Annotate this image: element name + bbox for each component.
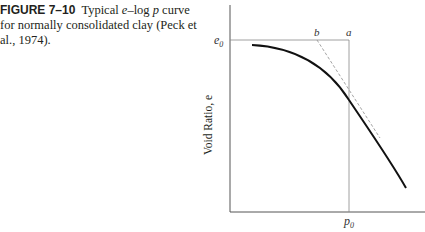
e0-label: e0 — [214, 33, 223, 49]
p0-label: p0 — [343, 214, 354, 230]
a-label: a — [346, 26, 352, 38]
tangent-dashed-line — [317, 40, 380, 138]
y-axis-label: Void Ratio, e — [202, 95, 214, 155]
b-label: b — [314, 26, 320, 38]
e-log-p-curve — [252, 45, 406, 188]
